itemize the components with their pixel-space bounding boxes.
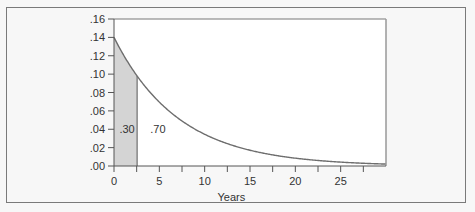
y-tick-label: .12 [90,50,105,62]
y-tick-label: .02 [90,142,105,154]
y-tick-label: .04 [90,123,105,135]
x-tick-label: 20 [289,175,301,187]
area-annotation: .30 [119,123,134,135]
y-tick-label: .00 [90,160,105,172]
x-tick-label: 25 [335,175,347,187]
x-axis-label: Years [217,191,245,203]
y-tick-label: .14 [90,31,105,43]
x-tick-label: 0 [111,175,117,187]
y-tick-label: .16 [90,13,105,25]
y-tick-label: .06 [90,105,105,117]
y-tick-label: .10 [90,68,105,80]
x-tick-label: 10 [199,175,211,187]
area-annotation: .70 [150,123,165,135]
y-tick-label: .08 [90,87,105,99]
x-tick-label: 15 [244,175,256,187]
plot-area [114,19,386,166]
x-tick-label: 5 [156,175,162,187]
exponential-density-chart: .00.02.04.06.08.10.12.14.160510152025Yea… [0,0,475,212]
